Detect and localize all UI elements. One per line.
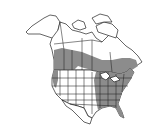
north-america-map — [0, 0, 155, 134]
ellesmere-island — [92, 14, 112, 24]
arctic-islands — [72, 20, 86, 30]
baffin-island — [96, 22, 118, 38]
range-map: Range map of North America — [0, 0, 155, 134]
